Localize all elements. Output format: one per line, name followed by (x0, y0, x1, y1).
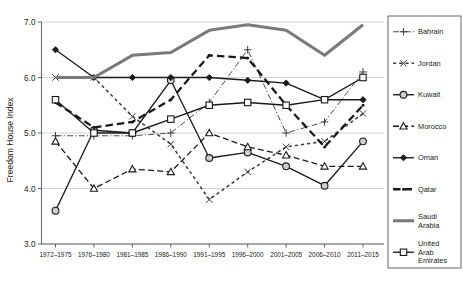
series-saudi-arabia (56, 25, 364, 78)
data-point-marker (206, 196, 212, 202)
data-point-marker (206, 74, 212, 80)
data-point-marker (52, 207, 59, 214)
data-point-marker (362, 104, 365, 107)
data-point-marker (208, 54, 211, 57)
data-point-marker (400, 91, 407, 98)
x-tick-label-6: 2001–2005 (270, 251, 302, 258)
legend-label: Morocco (418, 122, 446, 131)
legend-item-kuwait[interactable]: Kuwait (393, 90, 440, 99)
legend-border (388, 16, 461, 268)
freedom-house-index-line-chart: 3.04.05.06.07.0 1972–19751976–19801981–1… (0, 0, 463, 284)
legend-item-morocco[interactable]: Morocco (393, 122, 446, 131)
legend-label: Arabia (418, 221, 440, 230)
data-point-marker (206, 102, 212, 108)
data-point-marker (400, 28, 408, 36)
y-tick-label-7.0: 7.0 (24, 18, 36, 27)
legend-item-saudi-arabia[interactable]: SaudiArabia (393, 212, 440, 229)
x-tick-label-8: 2011–2015 (347, 251, 379, 258)
data-point-marker (402, 188, 405, 191)
data-point-marker (245, 77, 251, 83)
legend-label: Oman (418, 153, 438, 162)
series-bahrain (52, 46, 367, 140)
data-point-marker (91, 130, 97, 136)
y-tick-label-4.0: 4.0 (24, 185, 36, 194)
legend-label: Emirates (418, 256, 447, 265)
data-point-marker (282, 129, 290, 137)
data-point-marker (169, 98, 172, 101)
data-point-marker (52, 97, 58, 103)
y-axis-title: Freedom House Index (5, 97, 15, 183)
data-point-marker (321, 97, 327, 103)
y-tick-label-3.0: 3.0 (24, 240, 36, 249)
y-tick-label-6.0: 6.0 (24, 74, 36, 83)
legend-label: Kuwait (418, 90, 440, 99)
data-series-group (52, 25, 367, 214)
data-point-marker (400, 155, 406, 161)
data-point-marker (52, 138, 59, 144)
data-point-marker (400, 249, 406, 255)
legend-label: Jordan (418, 59, 441, 68)
chart-legend: BahrainJordanKuwaitMoroccoOmanQatarSaudi… (388, 16, 461, 268)
data-point-marker (283, 102, 289, 108)
data-point-marker (360, 74, 366, 80)
data-point-marker (246, 57, 249, 60)
data-point-marker (360, 138, 367, 145)
legend-item-jordan[interactable]: Jordan (393, 59, 441, 68)
legend-label: Bahrain (418, 27, 443, 36)
y-tick-label-5.0: 5.0 (24, 129, 36, 138)
legend-item-bahrain[interactable]: Bahrain (393, 27, 443, 36)
data-point-marker (283, 152, 290, 158)
x-tick-label-2: 1981–1985 (116, 251, 148, 258)
data-point-marker (168, 141, 174, 147)
legend-item-united-arab-emirates[interactable]: UnitedArabEmirates (393, 239, 447, 265)
legend-label: Qatar (418, 185, 437, 194)
x-tick-label-1: 1976–1980 (78, 251, 110, 258)
data-point-marker (244, 46, 252, 54)
data-point-marker (360, 110, 366, 116)
x-tick-label-7: 2006–2010 (309, 251, 341, 258)
data-point-marker (129, 130, 135, 136)
y-axis-title-group: Freedom House Index (5, 97, 15, 183)
legend-item-qatar[interactable]: Qatar (393, 185, 437, 194)
data-point-marker (244, 99, 250, 105)
x-tick-label-3: 1986–1990 (155, 251, 187, 258)
series-line (56, 50, 364, 136)
data-point-marker (323, 145, 326, 148)
x-tick-label-5: 1996–2000 (232, 251, 264, 258)
data-point-marker (360, 97, 366, 103)
data-point-marker (129, 113, 135, 119)
x-tick-label-4: 1991–1995 (193, 251, 225, 258)
data-point-marker (321, 182, 328, 189)
data-point-marker (244, 169, 250, 175)
x-tick-label-0: 1972–1975 (40, 251, 72, 258)
y-axis-tick-labels: 3.04.05.06.07.0 (24, 18, 36, 249)
data-point-marker (283, 163, 290, 170)
data-point-marker (168, 116, 174, 122)
data-point-marker (131, 120, 134, 123)
data-point-marker (283, 144, 289, 150)
data-point-marker (129, 74, 135, 80)
x-axis-tick-labels: 1972–19751976–19801981–19851986–19901991… (40, 251, 380, 258)
series-line (56, 25, 364, 78)
data-point-marker (321, 118, 329, 126)
legend-item-oman[interactable]: Oman (393, 153, 438, 162)
data-point-marker (283, 80, 289, 86)
data-point-marker (92, 126, 95, 129)
chart-container: 3.04.05.06.07.0 1972–19751976–19801981–1… (0, 0, 463, 284)
data-point-marker (206, 155, 213, 162)
